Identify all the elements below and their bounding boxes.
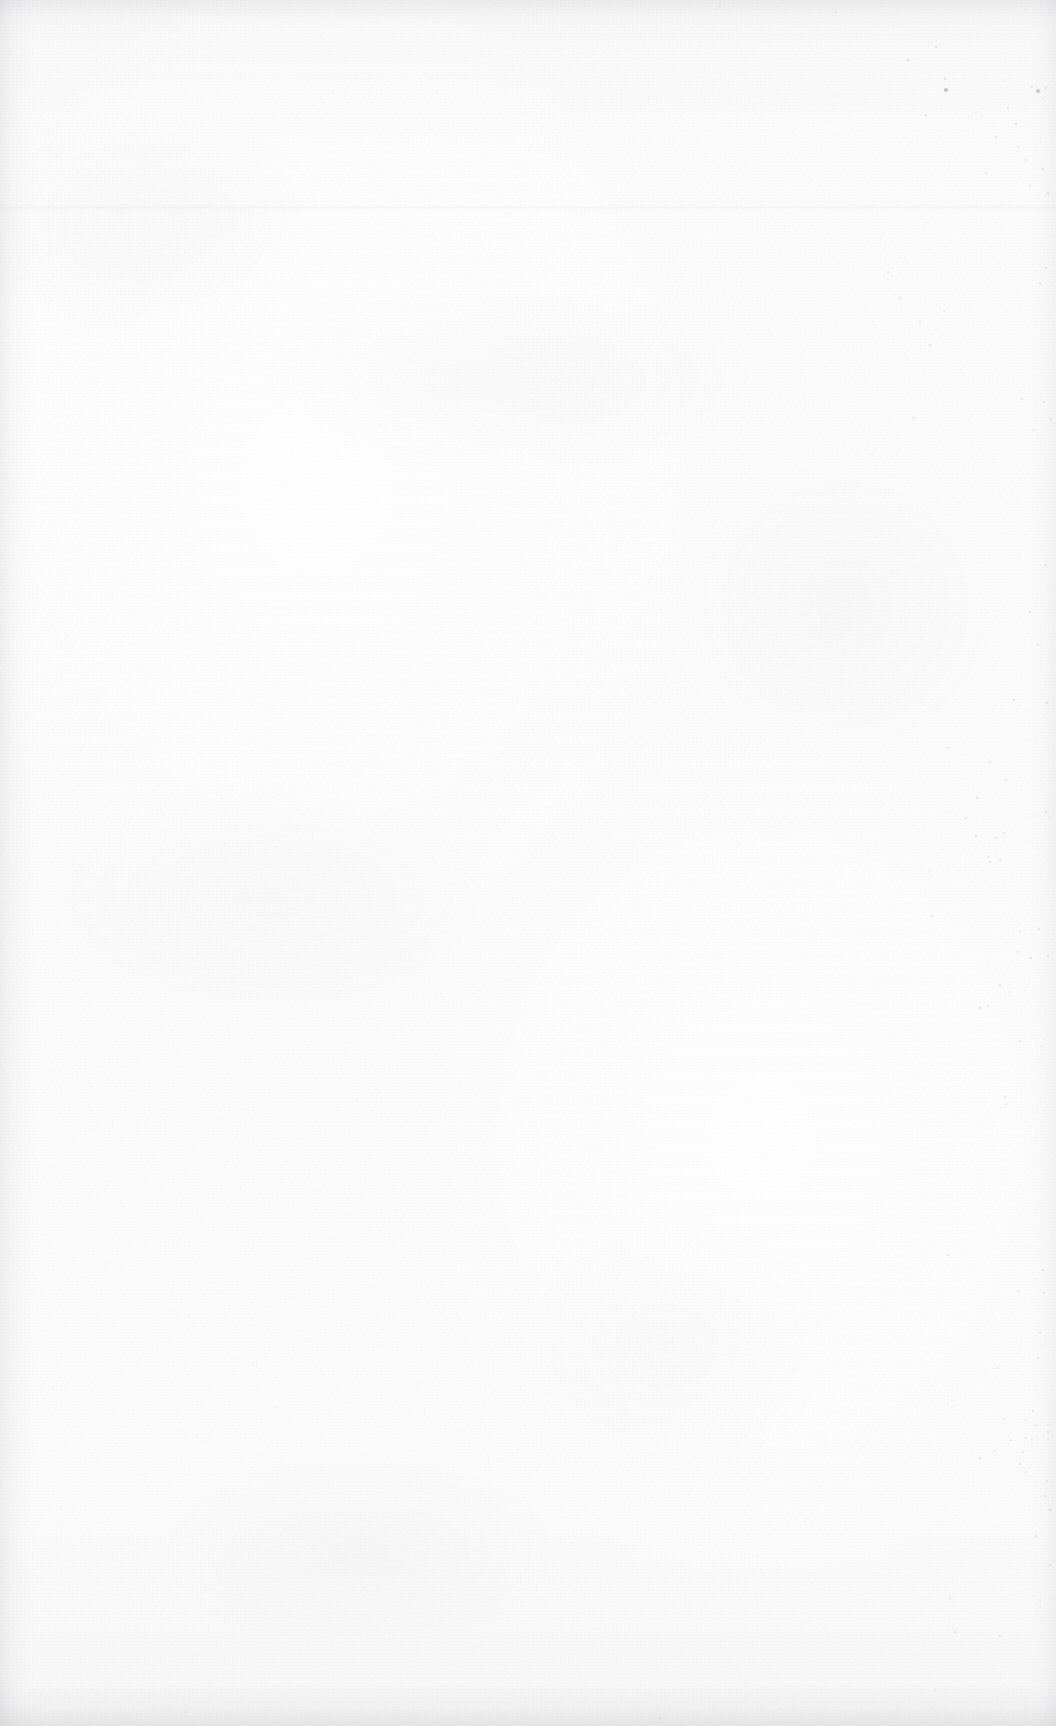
paper-background xyxy=(0,0,1056,1726)
scanned-page xyxy=(0,0,1056,1726)
